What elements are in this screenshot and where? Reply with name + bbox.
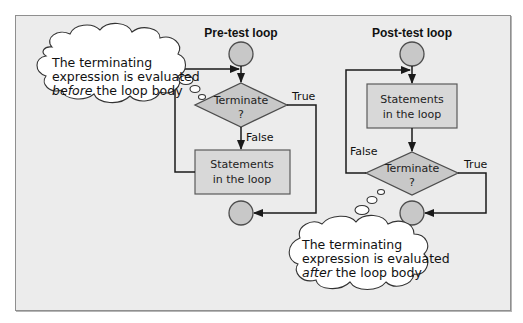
pre-test-start-node [229, 42, 253, 66]
pre-test-true-label: True [291, 90, 316, 103]
pre-test-title: Pre-test loop [204, 26, 277, 40]
post-callout-line1: The terminating [301, 237, 402, 252]
pre-test-end-node [229, 201, 253, 225]
pre-callout-line2: expression is evaluated [52, 69, 200, 84]
pre-thought-bubble-3 [199, 95, 206, 100]
post-thought-bubble-1 [378, 190, 385, 195]
pre-test-decision-question: ? [238, 108, 244, 121]
post-thought-bubble-3 [355, 206, 369, 215]
pre-test-statements-line2: in the loop [213, 173, 272, 186]
post-callout-emphasis: after [302, 265, 333, 280]
pre-test-loop: Pre-test loop Terminate ? False Statemen… [175, 26, 316, 225]
post-test-loop: Post-test loop Statements in the loop Te… [346, 26, 488, 225]
post-thought-bubble-2 [367, 197, 377, 204]
post-test-decision-label: Terminate [384, 162, 440, 175]
pre-callout-line3: before the loop body [52, 83, 183, 98]
pre-callout-line3-rest: the loop body [93, 83, 184, 98]
post-test-statements-box [367, 84, 457, 128]
pre-callout-line1: The terminating [51, 55, 152, 70]
post-test-statements-line2: in the loop [383, 108, 442, 121]
pre-thought-bubble-2 [190, 86, 200, 93]
post-test-true-label: True [463, 158, 488, 171]
flowchart-canvas: Pre-test loop Terminate ? False Statemen… [0, 0, 523, 323]
post-callout-line2: expression is evaluated [302, 251, 450, 266]
pre-test-statements-line1: Statements [210, 158, 274, 171]
post-test-false-label: False [350, 145, 378, 158]
post-test-statements-line1: Statements [380, 93, 444, 106]
post-test-decision-question: ? [409, 176, 415, 189]
pre-callout-emphasis: before [52, 83, 93, 98]
pre-test-statements-box [195, 150, 290, 194]
post-callout-line3: after the loop body [302, 265, 422, 280]
diagram-stage: Pre-test loop Terminate ? False Statemen… [0, 0, 523, 323]
pre-test-false-label: False [246, 131, 274, 144]
post-test-title: Post-test loop [372, 26, 452, 40]
post-callout-line3-rest: the loop body [332, 265, 423, 280]
post-test-start-node [400, 42, 424, 66]
post-test-callout: The terminating expression is evaluated … [289, 190, 449, 290]
pre-test-callout: The terminating expression is evaluated … [37, 23, 206, 102]
pre-test-decision-label: Terminate [213, 94, 269, 107]
